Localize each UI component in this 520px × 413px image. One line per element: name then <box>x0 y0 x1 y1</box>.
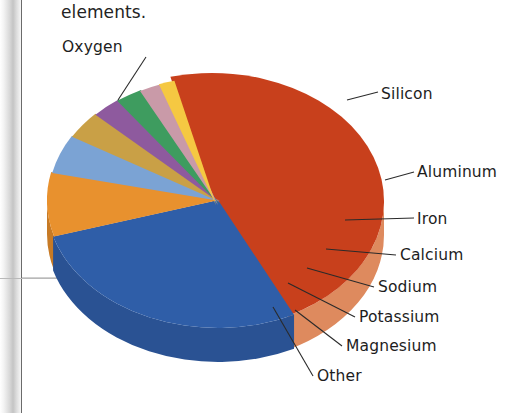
pie-svg <box>0 0 520 413</box>
leader-line-aluminum <box>385 172 414 180</box>
slice-label-iron: Iron <box>417 210 448 228</box>
pie-chart-figure: elements. <box>0 0 520 413</box>
slice-label-calcium: Calcium <box>400 246 463 264</box>
slice-label-other: Other <box>317 367 362 385</box>
slice-label-sodium: Sodium <box>378 278 437 296</box>
slice-label-oxygen: Oxygen <box>62 38 123 56</box>
pie-chart-graphic <box>0 0 520 413</box>
slice-label-magnesium: Magnesium <box>346 337 437 355</box>
slice-label-aluminum: Aluminum <box>417 163 497 181</box>
pie-slices-top <box>47 73 384 328</box>
leader-line-silicon <box>347 92 378 100</box>
slice-label-silicon: Silicon <box>381 85 433 103</box>
slice-label-potassium: Potassium <box>359 308 440 326</box>
